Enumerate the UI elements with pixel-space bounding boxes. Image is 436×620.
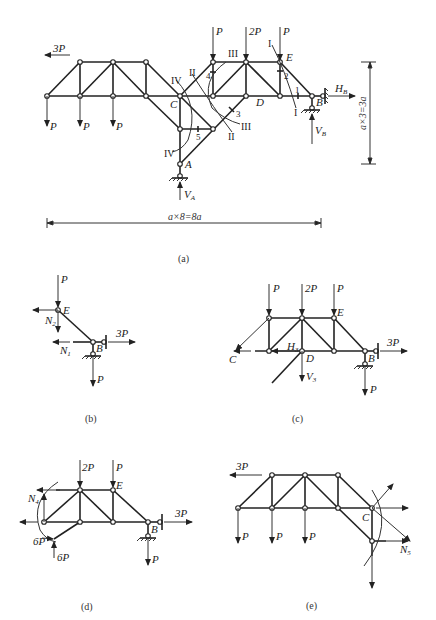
- node-B-label: B: [316, 96, 323, 108]
- node-E-label: E: [285, 51, 293, 63]
- load-3P-label: 3P: [174, 507, 188, 519]
- load-3P-label: 3P: [386, 336, 400, 348]
- caption-c: (c): [292, 413, 303, 425]
- load-P-label: P: [49, 120, 57, 132]
- section-II-top-label: II: [189, 67, 196, 78]
- node-E-label: E: [115, 479, 123, 491]
- section-IV-top-label: IV: [171, 75, 182, 86]
- load-2P-label: 2P: [305, 282, 318, 294]
- truss-diagram: 3P P P P P 2P P E C D A B HB VB VA I I I…: [0, 0, 436, 620]
- load-P-label: P: [96, 373, 104, 385]
- load-P-label: P: [272, 282, 280, 294]
- node-D-label: D: [255, 96, 264, 108]
- load-P-label: P: [115, 120, 123, 132]
- force-N4-label: N4: [27, 492, 39, 506]
- figure-a: 3P P P P P 2P P E C D A B HB VB VA I I I…: [45, 25, 376, 265]
- load-P-label: P: [151, 553, 159, 565]
- dimension-3a-label: a×3=3a: [357, 97, 368, 131]
- node-C-label: C: [362, 511, 370, 523]
- node-C-label: C: [229, 353, 237, 365]
- figure-c: P 2P P E C D B H3 V3 3P P (c): [229, 282, 407, 425]
- support-B: [301, 88, 328, 113]
- load-P-label: P: [241, 530, 249, 542]
- section-II-bottom-label: II: [228, 131, 235, 142]
- load-P-label: P: [60, 273, 68, 285]
- section-cut-curve: [364, 490, 382, 566]
- node-A-label: A: [184, 158, 192, 170]
- force-N1-label: N1: [59, 344, 71, 358]
- member-2-label: 2: [284, 71, 289, 81]
- loads-a: [45, 27, 355, 200]
- section-III-bottom-label: III: [241, 121, 251, 132]
- node-B-label: B: [368, 352, 375, 364]
- figure-e: 3P P P P C N5 (e): [230, 460, 411, 612]
- load-P-label: P: [82, 120, 90, 132]
- section-I-bottom-label: I: [294, 107, 297, 118]
- reaction-HB-label: HB: [334, 82, 348, 96]
- force-V3-label: V3: [306, 370, 317, 384]
- node-B-label: B: [96, 342, 103, 354]
- dimension-8a-label: a×8=8a: [168, 211, 202, 222]
- load-P-label: P: [308, 530, 316, 542]
- section-III-top-label: III: [228, 48, 238, 59]
- node-E-label: E: [336, 306, 344, 318]
- node-C-label: C: [170, 98, 178, 110]
- load-P-label: P: [275, 530, 283, 542]
- member-3-label: 3: [236, 109, 241, 119]
- load-3P-label: 3P: [235, 460, 249, 472]
- load-3P-label: 3P: [52, 42, 66, 54]
- member-4-label: 4: [206, 71, 211, 81]
- member-1-label: 1: [295, 85, 300, 95]
- load-P-label: P: [115, 461, 123, 473]
- load-2P-label: 2P: [82, 461, 95, 473]
- force-6P-horizontal-label: 6P: [33, 535, 46, 547]
- reaction-VB-label: VB: [315, 124, 327, 138]
- load-P-label: P: [215, 25, 223, 37]
- section-IV-bottom-label: IV: [164, 148, 175, 159]
- loads-e: [230, 475, 410, 588]
- loads-c: [234, 284, 407, 395]
- caption-a: (a): [178, 253, 189, 265]
- load-2P-label: 2P: [249, 25, 262, 37]
- right-truss-members: [180, 62, 323, 108]
- caption-e: (e): [306, 600, 317, 612]
- force-N5-label: N5: [399, 543, 411, 557]
- force-6P-vertical-label: 6P: [57, 551, 70, 563]
- figure-d: 2P P E B N4 3P 6P 6P P (d): [20, 460, 192, 613]
- member-5-label: 5: [196, 132, 201, 142]
- caption-d: (d): [81, 601, 93, 613]
- loads-d: [20, 460, 192, 565]
- force-H3-label: H3: [286, 340, 299, 354]
- load-P-label: P: [336, 282, 344, 294]
- load-3P-label: 3P: [115, 327, 129, 339]
- load-P-label: P: [282, 25, 290, 37]
- force-N2-label: N2: [44, 314, 56, 328]
- node-B-label: B: [151, 523, 158, 535]
- reaction-VA-label: VA: [184, 188, 196, 202]
- node-E-label: E: [62, 304, 70, 316]
- figure-b: P E B 3P P N2 N1 (b): [33, 273, 135, 425]
- section-I-top-label: I: [268, 38, 271, 49]
- node-D-label: D: [305, 352, 314, 364]
- load-P-label: P: [369, 383, 377, 395]
- caption-b: (b): [85, 413, 97, 425]
- support-A: [169, 178, 188, 181]
